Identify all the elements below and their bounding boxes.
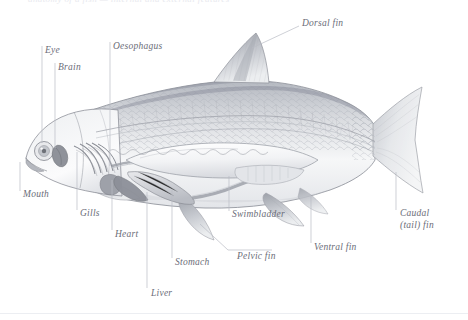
page-bottom-rule — [0, 313, 468, 314]
caudal-fin — [352, 87, 423, 193]
leader-pelvic-fin — [200, 224, 228, 250]
label-eye: Eye — [45, 45, 60, 56]
label-stomach: Stomach — [175, 257, 209, 268]
fish-anatomy-figure: anatomy of a fish — internal and externa… — [0, 0, 468, 320]
dorsal-fin — [210, 30, 274, 88]
label-gills: Gills — [80, 208, 100, 219]
label-swimbladder: Swimbladder — [232, 209, 285, 220]
label-ventral-fin: Ventral fin — [314, 242, 357, 253]
label-dorsal-fin: Dorsal fin — [302, 18, 343, 29]
fish-illustration — [0, 0, 468, 320]
eye — [35, 142, 54, 161]
label-caudal-fin-line1: Caudal — [400, 208, 456, 220]
leader-dorsal-fin — [252, 26, 299, 48]
label-mouth: Mouth — [23, 189, 49, 200]
head — [26, 109, 122, 196]
label-oesophagus: Oesophagus — [113, 41, 162, 52]
label-brain: Brain — [58, 62, 81, 73]
label-pelvic-fin: Pelvic fin — [237, 251, 276, 262]
label-heart: Heart — [115, 229, 138, 240]
label-caudal-fin-line2: (tail) fin — [400, 220, 456, 232]
label-caudal-fin: Caudal (tail) fin — [400, 208, 456, 231]
label-liver: Liver — [151, 288, 172, 299]
